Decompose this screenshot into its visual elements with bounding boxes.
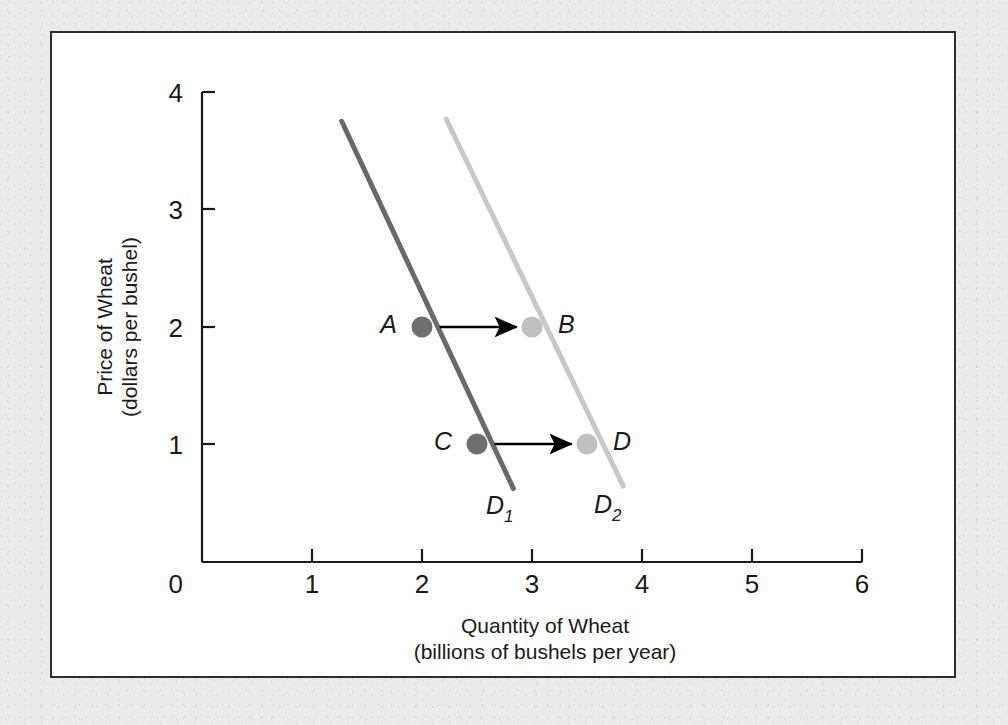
y-tick-label-0: 0 (169, 569, 183, 599)
x-tick-labels: 1 2 3 4 5 6 (305, 569, 869, 599)
y-axis-ticks (202, 92, 215, 444)
x-tick-label-4: 4 (635, 569, 649, 599)
demand-curve-d2-label-subscript: 2 (611, 506, 622, 525)
y-tick-label-1: 1 (169, 430, 183, 460)
y-tick-labels: 4 3 2 1 0 (169, 78, 183, 599)
x-axis-title: Quantity of Wheat (billions of bushels p… (414, 614, 677, 663)
y-tick-label-3: 3 (169, 195, 183, 225)
x-tick-label-5: 5 (745, 569, 759, 599)
demand-curve-d2-label-text: D (594, 490, 612, 518)
y-tick-label-4: 4 (169, 78, 183, 108)
data-point-a-label: A (378, 310, 397, 338)
chart-panel: 4 3 2 1 0 1 2 3 4 5 6 Price of Wheat (do… (50, 31, 956, 678)
demand-curve-d2-line (446, 119, 623, 486)
demand-curve-d2-label: D2 (594, 490, 622, 525)
x-tick-label-2: 2 (415, 569, 429, 599)
data-point-d[interactable] (577, 434, 598, 455)
data-point-d-label: D (613, 427, 631, 455)
x-tick-label-6: 6 (855, 569, 869, 599)
data-points: A B C D (378, 310, 631, 455)
demand-curve-d1-label-text: D (486, 491, 504, 519)
y-tick-label-2: 2 (169, 313, 183, 343)
x-tick-label-1: 1 (305, 569, 319, 599)
x-axis-title-line-1: Quantity of Wheat (461, 614, 629, 637)
shift-arrows (440, 327, 572, 444)
data-point-a[interactable] (412, 317, 433, 338)
demand-curve-d1-label: D1 (486, 491, 514, 526)
demand-shift-chart: 4 3 2 1 0 1 2 3 4 5 6 Price of Wheat (do… (52, 33, 958, 680)
x-axis-title-line-2: (billions of bushels per year) (414, 640, 677, 663)
x-axis-ticks (312, 549, 862, 562)
figure-frame: 4 3 2 1 0 1 2 3 4 5 6 Price of Wheat (do… (0, 0, 1008, 725)
y-axis-title: Price of Wheat (dollars per bushel) (93, 237, 141, 417)
demand-curve-d1-line (342, 121, 514, 488)
data-point-b[interactable] (522, 317, 543, 338)
data-point-c-label: C (434, 427, 453, 455)
x-tick-label-3: 3 (525, 569, 539, 599)
y-axis-title-line-2: (dollars per bushel) (118, 237, 141, 417)
y-axis-title-line-1: Price of Wheat (93, 258, 116, 396)
data-point-b-label: B (558, 310, 575, 338)
data-point-c[interactable] (467, 434, 488, 455)
demand-curve-d1-label-subscript: 1 (504, 507, 513, 526)
